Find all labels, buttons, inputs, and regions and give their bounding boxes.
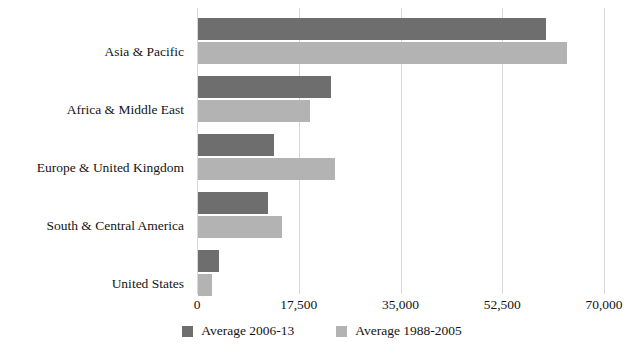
legend-label: Average 1988-2005 (355, 323, 462, 339)
bar (198, 274, 212, 296)
value-axis-tick: 17,500 (280, 296, 317, 314)
value-axis-tick-labels: 017,50035,00052,50070,000 (0, 296, 644, 316)
category-label: South & Central America (0, 218, 184, 234)
bar (198, 192, 268, 214)
plot-area (197, 8, 604, 294)
category-axis-labels: Asia & PacificAfrica & Middle EastEurope… (0, 18, 190, 294)
value-axis-tick: 52,500 (484, 296, 521, 314)
bar (198, 134, 274, 156)
bar (198, 216, 282, 238)
category-label: Europe & United Kingdom (0, 160, 184, 176)
bar (198, 100, 310, 122)
value-axis-tick: 35,000 (382, 296, 419, 314)
legend-swatch-icon (336, 326, 347, 337)
category-label: United States (0, 276, 184, 292)
legend-label: Average 2006-13 (201, 323, 294, 339)
bar (198, 18, 546, 40)
category-label: Africa & Middle East (0, 102, 184, 118)
bar (198, 250, 219, 272)
legend-item[interactable]: Average 2006-13 (182, 323, 294, 339)
gridline-70000 (604, 8, 605, 294)
bar (198, 158, 335, 180)
legend-item[interactable]: Average 1988-2005 (336, 323, 462, 339)
chart-legend: Average 2006-13Average 1988-2005 (0, 321, 644, 341)
bar (198, 42, 567, 64)
legend-swatch-icon (182, 326, 193, 337)
value-axis-tick: 0 (194, 296, 201, 314)
value-axis-tick: 70,000 (585, 296, 622, 314)
category-label: Asia & Pacific (0, 44, 184, 60)
bar-chart: Asia & PacificAfrica & Middle EastEurope… (0, 0, 644, 357)
bar (198, 76, 331, 98)
